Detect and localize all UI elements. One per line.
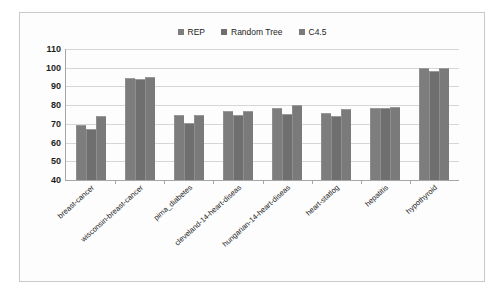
bar[interactable] [223,111,233,180]
x-axis-tick [213,180,214,184]
y-axis-tick-label: 70 [51,119,61,129]
bar-group [263,49,312,180]
bar[interactable] [233,115,243,181]
chart-legend: REPRandom TreeC4.5 [20,27,484,37]
bar[interactable] [243,111,253,180]
bar[interactable] [282,114,292,180]
x-axis-label-text: breast-cancer [55,183,95,220]
bar-group [361,49,410,180]
x-axis-label: pima_diabetes [152,183,194,222]
bar[interactable] [439,68,449,180]
bar[interactable] [419,68,429,180]
bar[interactable] [321,113,331,180]
legend-entry-random-tree[interactable]: Random Tree [221,27,283,37]
legend-label: C4.5 [309,27,327,37]
bar[interactable] [331,116,341,180]
x-axis-tick [312,180,313,184]
bar[interactable] [429,71,439,180]
y-axis-tick-label: 40 [51,175,61,185]
bar[interactable] [96,116,106,180]
legend-swatch-icon [299,29,305,35]
legend-swatch-icon [178,29,184,35]
x-axis-label: heart-statlog [304,183,341,218]
bar[interactable] [174,115,184,180]
bar[interactable] [341,109,351,180]
plot-area: 110100908070605040 [65,49,459,181]
x-axis-tick [115,180,116,184]
y-axis-tick-label: 50 [51,156,61,166]
y-axis-tick-label: 60 [51,138,61,148]
x-axis-label-text: heart-statlog [304,183,341,218]
x-axis-label: breast-cancer [55,183,95,220]
y-axis-tick-label: 90 [51,81,61,91]
x-axis-label: hepatitis [364,183,391,208]
bar[interactable] [86,129,96,180]
legend-label: REP [188,27,205,37]
legend-entry-c4-5[interactable]: C4.5 [299,27,327,37]
bar-group [115,49,164,180]
x-axis-tick [410,180,411,184]
bar[interactable] [184,123,194,180]
bar-group [66,49,115,180]
legend-label: Random Tree [231,27,283,37]
y-axis-tick-label: 100 [46,63,61,73]
bar[interactable] [370,108,380,180]
x-axis-label-text: hypothyroid [405,183,440,216]
y-axis-tick-label: 80 [51,100,61,110]
x-axis-tick [361,180,362,184]
bar-group [410,49,459,180]
legend-swatch-icon [221,29,227,35]
bar[interactable] [135,79,145,180]
x-axis-label-text: hepatitis [364,183,391,208]
y-axis-tick-label: 110 [46,44,61,54]
bar[interactable] [390,107,400,180]
x-axis-label: hypothyroid [405,183,440,216]
bar[interactable] [380,108,390,180]
bar[interactable] [292,105,302,180]
bar-group [312,49,361,180]
x-axis-tick [164,180,165,184]
bar[interactable] [125,78,135,180]
x-axis-label-text: pima_diabetes [152,183,194,222]
x-axis-tick [263,180,264,184]
bar[interactable] [272,108,282,180]
bar[interactable] [194,115,204,180]
legend-entry-rep[interactable]: REP [178,27,205,37]
bar[interactable] [145,77,155,180]
bar[interactable] [76,125,86,180]
bars-layer [66,49,459,180]
bar-group [164,49,213,180]
chart-frame: REPRandom TreeC4.5 110100908070605040 br… [19,12,485,282]
bar-group [213,49,262,180]
